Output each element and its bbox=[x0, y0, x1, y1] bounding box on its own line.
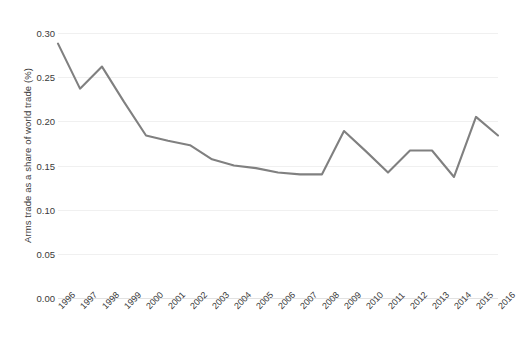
data-line-series bbox=[58, 44, 498, 177]
